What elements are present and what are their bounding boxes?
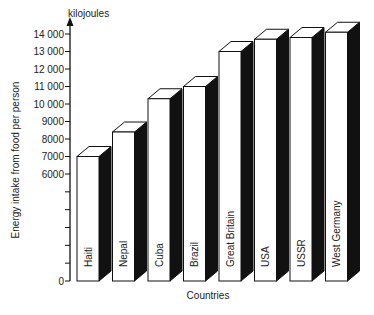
bar-label: Haiti: [83, 247, 94, 267]
y-tick-label: 0: [58, 276, 64, 287]
bar-ussr: USSR: [290, 28, 324, 282]
bar-west-germany: West Germany: [326, 22, 360, 281]
bar-cuba: Cuba: [148, 89, 182, 281]
y-axis-unit: kilojoules: [68, 8, 109, 19]
y-axis-title: Energy intake from food per person: [10, 82, 21, 239]
bar-great-britain: Great Britain: [219, 42, 253, 282]
x-axis-title: Countries: [187, 290, 230, 301]
bar-label: Great Britain: [225, 211, 236, 267]
y-tick-label: 8000: [42, 134, 65, 145]
bar-label: Brazil: [189, 242, 200, 267]
bar-label: West Germany: [331, 201, 342, 268]
bar-label: Nepal: [118, 241, 129, 267]
bar-label: Cuba: [154, 243, 165, 267]
bar-label: USSR: [296, 239, 307, 267]
y-tick-label: 13 000: [33, 46, 64, 57]
bar-usa: USA: [255, 29, 289, 281]
y-axis: 0600070008000900010 00011 00012 00013 00…: [33, 17, 73, 287]
y-tick-label: 11 000: [34, 81, 64, 92]
y-tick-label: 9000: [42, 116, 65, 127]
bar-nepal: Nepal: [113, 122, 147, 281]
bar-label: USA: [260, 246, 271, 267]
bar-chart: 0600070008000900010 00011 00012 00013 00…: [0, 0, 374, 315]
y-tick-label: 7000: [42, 151, 65, 162]
bar-brazil: Brazil: [184, 77, 218, 282]
bar-haiti: Haiti: [77, 147, 111, 282]
y-tick-label: 12 000: [33, 64, 64, 75]
bars: HaitiNepalCubaBrazilGreat BritainUSAUSSR…: [77, 22, 360, 281]
y-tick-label: 6000: [42, 169, 65, 180]
y-tick-label: 14 000: [33, 29, 64, 40]
y-tick-label: 10 000: [33, 99, 64, 110]
